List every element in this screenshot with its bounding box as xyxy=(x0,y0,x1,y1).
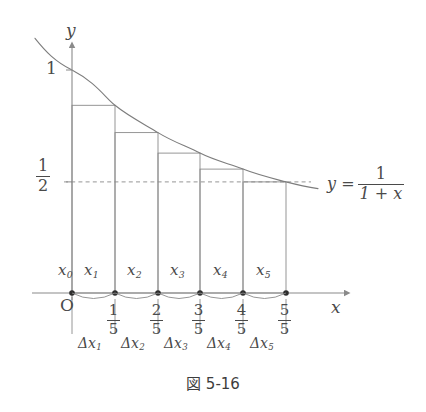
x-tick-4-numerator: 4 xyxy=(235,303,248,320)
interval-label-1-index: 1 xyxy=(96,342,102,352)
interval-label-5: Δx5 xyxy=(250,336,274,352)
interval-arc-1 xyxy=(72,293,115,299)
x-tick-3-denominator: 5 xyxy=(192,320,205,338)
x-tick-3-numerator: 3 xyxy=(192,303,205,320)
x-axis-label: x xyxy=(331,299,341,316)
half-denominator: 2 xyxy=(36,176,50,195)
y-axis-label: y xyxy=(66,22,76,39)
x-tick-label-1: 1 5 xyxy=(107,303,120,337)
node-label-x0-base: x xyxy=(58,261,66,279)
node-label-x1-base: x xyxy=(84,261,92,279)
y-tick-label-half: 1 2 xyxy=(36,158,50,194)
x-tick-fraction-2: 2 5 xyxy=(150,303,163,337)
interval-arc-2 xyxy=(115,293,158,299)
y-axis-ticks xyxy=(66,70,72,182)
x-tick-5-denominator: 5 xyxy=(278,320,291,338)
x-tick-2-numerator: 2 xyxy=(150,303,163,320)
x-tick-5-numerator: 5 xyxy=(278,303,291,320)
figure-container: y x 1 1 2 O y = 1 1 + x x0 x1 x2 x3 x4 x… xyxy=(0,0,426,412)
equation-numerator: 1 xyxy=(358,166,405,184)
function-curve xyxy=(35,38,318,188)
y-tick-label-one: 1 xyxy=(46,60,57,77)
x-tick-fraction-3: 3 5 xyxy=(192,303,205,337)
node-label-x2-base: x xyxy=(127,261,135,279)
x-tick-label-5: 5 5 xyxy=(278,303,291,337)
x-tick-fraction-1: 1 5 xyxy=(107,303,120,337)
x-tick-fraction-5: 5 5 xyxy=(278,303,291,337)
interval-label-4-index: 4 xyxy=(225,342,231,352)
node-label-x4: x4 xyxy=(213,263,228,279)
interval-label-2: Δx2 xyxy=(121,336,145,352)
interval-label-4: Δx4 xyxy=(207,336,231,352)
x-tick-label-4: 4 5 xyxy=(235,303,248,337)
half-numerator: 1 xyxy=(36,158,50,176)
interval-label-4-base: Δx xyxy=(207,335,225,351)
interval-label-5-base: Δx xyxy=(250,335,268,351)
node-label-x3-base: x xyxy=(170,261,178,279)
node-label-x2-index: 2 xyxy=(136,269,142,280)
interval-label-3-base: Δx xyxy=(164,335,182,351)
equation-lhs: y = xyxy=(327,176,355,192)
interval-label-1: Δx1 xyxy=(78,336,102,352)
node-label-x3: x3 xyxy=(170,263,185,279)
equation-denominator: 1 + x xyxy=(358,184,405,203)
interval-label-2-base: Δx xyxy=(121,335,139,351)
interval-arc-5 xyxy=(243,293,286,299)
curve-equation-label: y = 1 1 + x xyxy=(327,166,404,202)
below-axis-separators xyxy=(72,297,286,334)
interval-label-3-index: 3 xyxy=(182,342,188,352)
interval-arc-3 xyxy=(158,293,200,299)
node-label-x5-index: 5 xyxy=(265,269,271,280)
figure-caption: 図 5-16 xyxy=(0,377,426,392)
x-tick-label-3: 3 5 xyxy=(192,303,205,337)
node-label-x4-index: 4 xyxy=(222,269,228,280)
interval-label-2-index: 2 xyxy=(139,342,145,352)
node-label-x4-base: x xyxy=(213,261,221,279)
node-label-x3-index: 3 xyxy=(179,269,185,280)
x-tick-1-numerator: 1 xyxy=(107,303,120,320)
interval-arc-4 xyxy=(200,293,243,299)
node-label-x5: x5 xyxy=(256,263,271,279)
node-label-x1-index: 1 xyxy=(93,269,99,280)
x-tick-1-denominator: 5 xyxy=(107,320,120,338)
interval-arcs xyxy=(72,293,286,299)
equation-fraction: 1 1 + x xyxy=(358,166,405,202)
interval-label-3: Δx3 xyxy=(164,336,188,352)
node-label-x1: x1 xyxy=(84,263,99,279)
node-label-x5-base: x xyxy=(256,261,264,279)
node-label-x2: x2 xyxy=(127,263,142,279)
half-fraction: 1 2 xyxy=(36,158,50,194)
origin-label: O xyxy=(60,297,74,314)
node-label-x0-index: 0 xyxy=(67,269,73,280)
interval-label-1-base: Δx xyxy=(78,335,96,351)
node-label-x0: x0 xyxy=(58,263,73,279)
x-tick-4-denominator: 5 xyxy=(235,320,248,338)
x-tick-2-denominator: 5 xyxy=(150,320,163,338)
interval-label-5-index: 5 xyxy=(268,342,274,352)
x-tick-label-2: 2 5 xyxy=(150,303,163,337)
x-tick-fraction-4: 4 5 xyxy=(235,303,248,337)
